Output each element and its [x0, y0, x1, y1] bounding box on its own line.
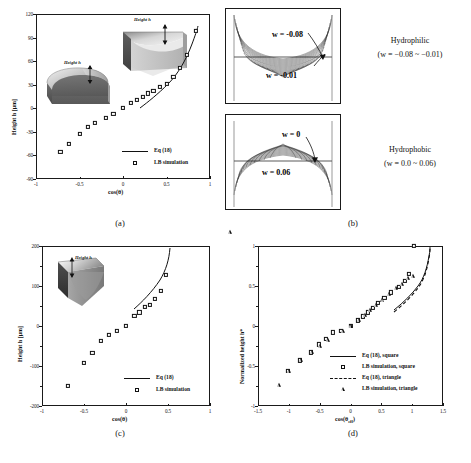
figure-root: 120 90 60 30 0 -30 -60 -90 -1 -0.5 0 [0, 0, 471, 463]
square-swatch-icon [341, 365, 345, 369]
panel-c-legend: Eq (18) LB simulation [124, 374, 210, 395]
panel-a-y-axis-title: Height h [μm] [11, 99, 17, 135]
line-swatch-icon [122, 151, 148, 152]
panel-a-legend: Eq (18) LB simulation [122, 147, 208, 168]
panel-d-x-axis-title-text: cos(θ [335, 416, 348, 422]
panel-c-legend-item-1: LB simulation [124, 386, 210, 395]
panel-b-top-w-lower: w = -0.01 [266, 71, 297, 80]
panel-d-legend-item-2: Eq (18), triangle [330, 374, 442, 383]
panel-d-legend-item-3: LB simulation, triangle [330, 385, 442, 394]
panel-d-legend-label-0: Eq (18), square [362, 352, 398, 358]
panel-d-caption: (d) [333, 428, 373, 438]
panel-a-legend-label-0: Eq (18) [154, 147, 172, 153]
panel-d-legend-label-2: Eq (18), triangle [362, 374, 401, 380]
panel-a-legend-label-1: LB simulation [154, 159, 188, 165]
panel-b-bottom-title: Hydrophobic [355, 145, 465, 154]
dashed-line-swatch-icon [330, 378, 356, 379]
panel-b: w = -0.08 w = -0.01 Hydrophilic (w = −0.… [230, 0, 471, 232]
panel-b-bottom-w-upper: w = 0 [282, 130, 300, 139]
panel-d: 1 0.5 0 -0.5 -1 -1.5 -1 -0.5 0 0.5 [230, 232, 471, 463]
panel-c-x-axis-title: cos(θ) [112, 416, 127, 422]
panel-d-y-axis-title-text: Normalized height h [239, 332, 245, 384]
panel-b-bottom-range: (w = 0.0 ~ 0.06) [355, 159, 465, 168]
panel-a-legend-item-0: Eq (18) [122, 147, 208, 156]
triangle-swatch-icon [341, 387, 345, 391]
panel-a-x-axis-title: cos(θ) [108, 189, 123, 195]
panel-d-legend-label-3: LB simulation, triangle [362, 385, 417, 391]
square-swatch-icon [135, 388, 139, 392]
panel-b-bottom-box: w = 0 w = 0.06 [225, 114, 341, 210]
panel-c-caption: (c) [100, 428, 140, 438]
panel-d-legend-label-1: LB simulation, square [362, 363, 415, 369]
panel-a-caption: (a) [100, 218, 140, 228]
panel-d-legend-item-0: Eq (18), square [330, 352, 442, 361]
panel-d-y-axis-title: Normalized height h* [239, 329, 245, 384]
panel-c-y-axis-title: Height h [μm] [17, 326, 23, 362]
line-swatch-icon [124, 378, 150, 379]
square-swatch-icon [133, 161, 137, 165]
panel-c-legend-label-0: Eq (18) [156, 374, 174, 380]
panel-c-legend-item-0: Eq (18) [124, 374, 210, 383]
panel-d-y-axis-title-star: * [239, 329, 245, 332]
panel-c: 200 100 0 -100 -200 -1 -0.5 0 0.5 1 [0, 232, 230, 463]
panel-d-x-axis-title: cos(θeff) [335, 416, 355, 424]
panel-b-caption: (b) [333, 218, 373, 228]
panel-d-legend-item-1: LB simulation, square [330, 363, 442, 372]
panel-a: 120 90 60 30 0 -30 -60 -90 -1 -0.5 0 [0, 0, 230, 232]
panel-a-legend-item-1: LB simulation [122, 159, 208, 168]
panel-d-x-axis-title-end: ) [353, 416, 355, 422]
panel-b-top-range: (w = −0.08 ~ −0.01) [355, 50, 465, 59]
panel-c-legend-label-1: LB simulation [156, 386, 190, 392]
panel-b-top-box: w = -0.08 w = -0.01 [225, 8, 341, 104]
panel-b-top-title: Hydrophilic [355, 36, 465, 45]
panel-b-bottom-w-lower: w = 0.06 [262, 168, 290, 177]
hydrophilic-meniscus-diagram [226, 9, 340, 103]
panel-b-top-w-upper: w = -0.08 [272, 30, 303, 39]
line-swatch-icon [330, 356, 356, 357]
panel-d-legend: Eq (18), square LB simulation, square Eq… [330, 352, 442, 394]
